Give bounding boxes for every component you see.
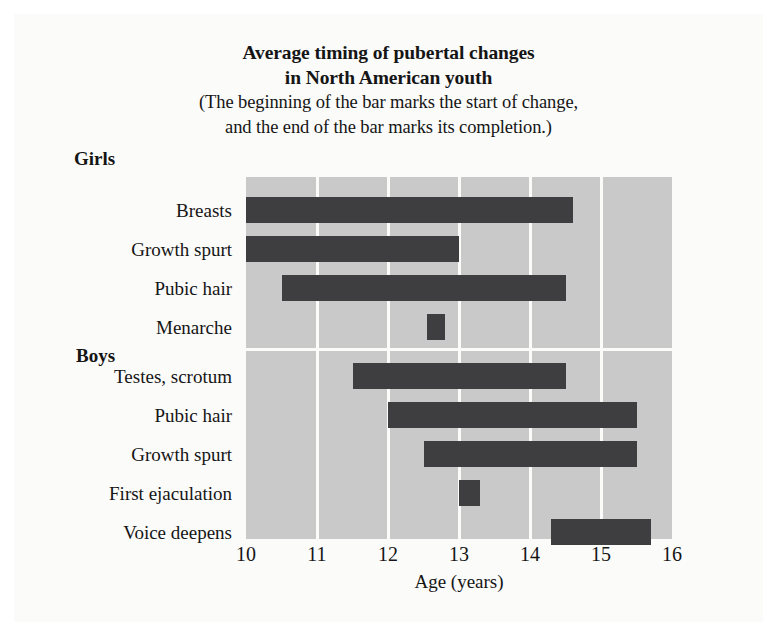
x-axis-label: Age (years) xyxy=(246,571,672,593)
bar-pubic-hair xyxy=(388,402,637,428)
row-label-menarche: Menarche xyxy=(156,317,232,339)
bar-growth-spurt xyxy=(424,441,637,467)
gridline-x-11 xyxy=(316,177,319,539)
row-label-pubic-hair: Pubic hair xyxy=(154,405,232,427)
title-block: Average timing of pubertal changes in No… xyxy=(14,40,763,140)
row-label-breasts: Breasts xyxy=(176,200,232,222)
row-label-pubic-hair: Pubic hair xyxy=(154,278,232,300)
bar-growth-spurt xyxy=(246,236,459,262)
row-label-growth-spurt: Growth spurt xyxy=(131,444,232,466)
bar-menarche xyxy=(427,314,445,340)
x-tick-label-15: 15 xyxy=(581,543,621,566)
x-tick-label-10: 10 xyxy=(226,543,266,566)
x-axis-ticks: 10111213141516 xyxy=(246,543,672,571)
x-tick-label-13: 13 xyxy=(439,543,479,566)
bar-testes-scrotum xyxy=(353,363,566,389)
chart-title-line-1: Average timing of pubertal changes xyxy=(14,40,763,65)
gridline-x-12 xyxy=(387,177,390,539)
gridline-x-14 xyxy=(529,177,532,539)
row-label-first-ejaculation: First ejaculation xyxy=(109,483,232,505)
row-label-column: Girls Boys BreastsGrowth spurtPubic hair… xyxy=(14,177,240,539)
row-label-voice-deepens: Voice deepens xyxy=(123,522,232,544)
row-label-testes-scrotum: Testes, scrotum xyxy=(114,366,232,388)
group-separator-line xyxy=(246,348,672,351)
bar-voice-deepens xyxy=(551,519,650,545)
chart-title-line-2: in North American youth xyxy=(14,65,763,90)
x-tick-label-11: 11 xyxy=(297,543,337,566)
x-tick-label-14: 14 xyxy=(510,543,550,566)
chart-subtitle-line-2: and the end of the bar marks its complet… xyxy=(14,115,763,140)
bar-pubic-hair xyxy=(282,275,566,301)
figure-panel: Average timing of pubertal changes in No… xyxy=(14,14,763,622)
x-tick-label-12: 12 xyxy=(368,543,408,566)
x-tick-label-16: 16 xyxy=(652,543,692,566)
gridline-x-15 xyxy=(600,177,603,539)
chart-subtitle-line-1: (The beginning of the bar marks the star… xyxy=(14,90,763,115)
plot-area xyxy=(246,177,672,539)
bar-breasts xyxy=(246,197,573,223)
group-label-boys: Boys xyxy=(76,345,115,367)
group-label-girls: Girls xyxy=(74,148,115,170)
row-label-growth-spurt: Growth spurt xyxy=(131,239,232,261)
bar-first-ejaculation xyxy=(459,480,480,506)
